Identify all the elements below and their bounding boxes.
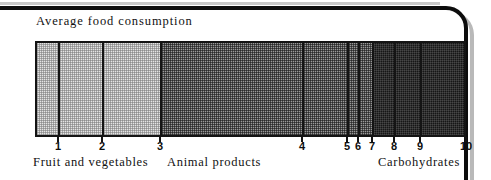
axis-tick-label-10: 10 (460, 140, 472, 152)
bar-segment-7 (358, 41, 372, 137)
figure-page: Average food consumption 12345678910 Fru… (0, 0, 491, 180)
bar-segment-3 (102, 41, 160, 137)
group-label-2: Carbohydrates (378, 155, 460, 170)
stacked-bar-chart (35, 41, 466, 137)
group-label-0: Fruit and vegetables (33, 155, 148, 170)
axis-tick-label-7: 7 (369, 140, 375, 152)
bar-segment-5 (302, 41, 347, 137)
bar-segment-2 (58, 41, 102, 137)
axis-tick-label-4: 4 (299, 140, 305, 152)
bar-segment-4 (160, 41, 302, 137)
chart-title: Average food consumption (36, 14, 193, 29)
axis-tick-label-8: 8 (391, 140, 397, 152)
axis-tick-label-3: 3 (157, 140, 163, 152)
axis-tick-label-1: 1 (55, 140, 61, 152)
axis-tick-label-5: 5 (344, 140, 350, 152)
bar-segment-8 (372, 41, 394, 137)
page-edge-shadow-top (0, 2, 440, 5)
axis-tick-label-2: 2 (99, 140, 105, 152)
axis-tick-label-6: 6 (355, 140, 361, 152)
bar-segment-1 (35, 41, 58, 137)
bar-segment-9 (394, 41, 420, 137)
group-label-1: Animal products (167, 155, 261, 170)
axis-tick-label-9: 9 (417, 140, 423, 152)
bar-segment-6 (347, 41, 358, 137)
bar-segment-10 (420, 41, 466, 137)
